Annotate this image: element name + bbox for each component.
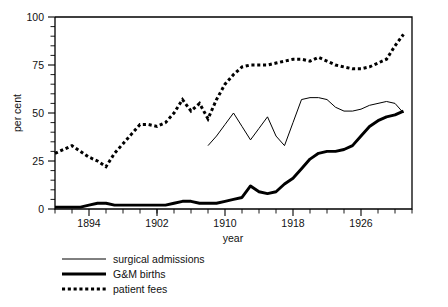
legend-label-gm-births: G&M births bbox=[113, 268, 166, 280]
legend-label-surgical-admissions: surgical admissions bbox=[113, 253, 205, 265]
series-gm-births bbox=[55, 111, 404, 207]
y-tick-label-75: 75 bbox=[32, 59, 44, 71]
chart-legend: surgical admissions G&M births patient f… bbox=[62, 253, 205, 295]
x-tick-label-1902: 1902 bbox=[145, 217, 169, 229]
x-tick-label-1918: 1918 bbox=[281, 217, 305, 229]
y-tick-label-0: 0 bbox=[38, 203, 44, 215]
x-tick-label-1894: 1894 bbox=[77, 217, 101, 229]
x-tick-label-1926: 1926 bbox=[349, 217, 373, 229]
y-tick-label-100: 100 bbox=[26, 11, 44, 23]
x-tick-label-1910: 1910 bbox=[213, 217, 237, 229]
x-axis-title: year bbox=[223, 232, 244, 244]
y-axis-title: per cent bbox=[11, 94, 23, 132]
y-axis-ticks bbox=[48, 17, 55, 209]
y-tick-label-50: 50 bbox=[32, 107, 44, 119]
chart-figure: 100 75 50 25 0 per cent bbox=[0, 0, 448, 307]
x-axis-ticks bbox=[55, 209, 412, 216]
legend-label-patient-fees: patient fees bbox=[113, 283, 167, 295]
line-chart: 100 75 50 25 0 per cent bbox=[0, 0, 448, 307]
y-tick-label-25: 25 bbox=[32, 155, 44, 167]
